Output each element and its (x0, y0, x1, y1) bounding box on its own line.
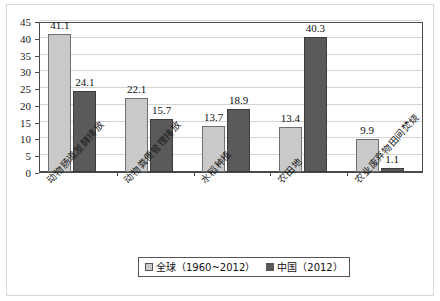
legend-item: 中国（2012） (266, 259, 342, 274)
bar-china: 18.9 (227, 109, 250, 172)
bar-value-label: 13.7 (204, 112, 223, 123)
y-axis-tick-label: 25 (20, 84, 31, 95)
y-axis-tick-label: 10 (20, 134, 31, 145)
bar-value-label: 22.1 (127, 84, 146, 95)
chart-figure: 051015202530354045 41.124.122.115.713.71… (6, 4, 434, 296)
plot-area: 41.124.122.115.713.718.913.440.39.91.1 (39, 22, 423, 173)
legend-swatch-china (266, 263, 274, 271)
bar-value-label: 24.1 (75, 77, 94, 88)
bar-value-label: 13.4 (281, 113, 300, 124)
legend-label: 全球（1960~2012） (156, 259, 255, 274)
y-axis-tick-label: 40 (20, 33, 31, 44)
legend-item: 全球（1960~2012） (145, 259, 255, 274)
legend-label: 中国（2012） (277, 259, 342, 274)
y-axis-tick-label: 0 (26, 168, 32, 179)
bar-value-label: 18.9 (229, 95, 248, 106)
gridline (40, 37, 422, 38)
legend-swatch-global (145, 263, 153, 271)
gridline (40, 87, 422, 88)
x-axis-labels: 动物肠道发酵排放动物粪便管理排放水稻种植农田地农业废弃物田间焚烧 (39, 173, 423, 243)
gridline (40, 20, 422, 21)
gridline (40, 54, 422, 55)
y-axis-tick-label: 45 (20, 17, 31, 28)
y-axis: 051015202530354045 (7, 15, 39, 180)
y-axis-tick-label: 20 (20, 100, 31, 111)
chart-legend: 全球（1960~2012）中国（2012） (138, 257, 350, 277)
bar-china: 1.1 (381, 168, 404, 172)
y-axis-tick-label: 35 (20, 50, 31, 61)
bar-value-label: 9.9 (360, 125, 374, 136)
y-axis-tick-label: 5 (26, 151, 32, 162)
y-axis-tick-label: 30 (20, 67, 31, 78)
bar-value-label: 41.1 (50, 20, 69, 31)
bar-value-label: 40.3 (306, 23, 325, 34)
y-axis-tick-label: 15 (20, 117, 31, 128)
bar-value-label: 15.7 (152, 105, 171, 116)
bar-china: 40.3 (304, 37, 327, 172)
gridline (40, 70, 422, 71)
